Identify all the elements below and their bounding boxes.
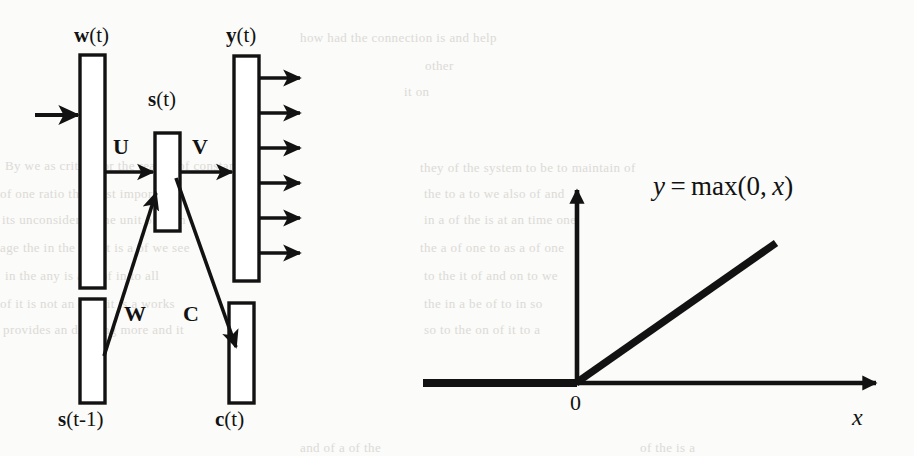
- figure-page: how had the connection is and helpotheri…: [0, 0, 914, 456]
- relu-equation-label: y = max(0, x): [653, 173, 793, 200]
- layer-box-w-t: [80, 55, 105, 288]
- w-arrow-line: [104, 193, 156, 356]
- connection-w-arrow: [104, 193, 156, 356]
- relu-equation-eq: =: [670, 171, 685, 201]
- layer-label-c-t-rest: (t): [224, 407, 244, 431]
- layer-label-w-t: w(t): [74, 25, 109, 46]
- layer-box-y-t: [234, 56, 259, 281]
- layer-label-s-t: s(t): [148, 89, 176, 110]
- layer-label-s-t-minus-1-rest: (t-1): [66, 407, 103, 431]
- x-axis-label: x: [852, 405, 863, 429]
- layer-label-c-t: c(t): [215, 409, 244, 430]
- layer-label-c-t-bold: c: [215, 407, 224, 431]
- relu-plot: [423, 190, 876, 383]
- layer-label-s-t-rest: (t): [156, 87, 176, 111]
- output-arrows-group: [259, 78, 300, 253]
- layer-box-s-t-minus-1: [80, 299, 105, 403]
- layer-label-s-t-bold: s: [148, 87, 156, 111]
- layer-label-w-t-rest: (t): [89, 23, 109, 47]
- layer-label-y-t: y(t): [226, 25, 256, 46]
- weight-label-v: V: [192, 136, 208, 158]
- layer-label-s-t-minus-1: s(t-1): [58, 409, 104, 430]
- layer-box-c-t: [229, 303, 254, 403]
- relu-equation-lhs: y: [653, 171, 665, 201]
- layer-label-y-t-rest: (t): [237, 23, 257, 47]
- weight-label-u: U: [113, 136, 129, 158]
- layer-label-y-t-bold: y: [226, 23, 237, 47]
- relu-slope-segment: [576, 243, 776, 383]
- layer-label-s-t-minus-1-bold: s: [58, 407, 66, 431]
- weight-label-c: C: [183, 303, 199, 325]
- layer-label-w-t-bold: w: [74, 23, 89, 47]
- figure-canvas: [0, 0, 914, 456]
- relu-equation-args: (0, x): [738, 171, 794, 201]
- origin-label: 0: [570, 392, 581, 414]
- relu-equation-fn: max: [691, 171, 738, 201]
- weight-label-w: W: [124, 303, 146, 325]
